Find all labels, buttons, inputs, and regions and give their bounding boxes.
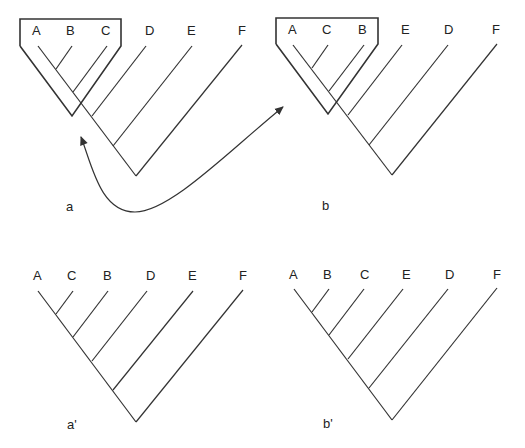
leaf-label: D xyxy=(145,23,154,38)
tree-b: A C B E D F b xyxy=(276,18,500,213)
leaf-label: C xyxy=(322,22,331,37)
leaf-label: C xyxy=(101,23,110,38)
leaf-label: F xyxy=(492,22,500,37)
leaf-label: C xyxy=(360,267,369,282)
tree-a-prime: A C B D E F a' xyxy=(33,268,247,432)
leaf-label: D xyxy=(444,22,453,37)
leaf-label: E xyxy=(187,23,196,38)
leaf-label: A xyxy=(289,267,298,282)
tree-a: A B C D E F a xyxy=(20,19,246,214)
leaf-label: F xyxy=(238,23,246,38)
panel-caption: a xyxy=(66,199,74,214)
leaf-label: B xyxy=(66,23,75,38)
panel-caption: b' xyxy=(323,416,333,431)
panel-caption: a' xyxy=(67,417,77,432)
tree-b-prime: A B C E D F b' xyxy=(289,267,501,431)
tree-swap-diagram: A B C D E F a A C B E D F b A xyxy=(0,0,525,448)
leaf-label: E xyxy=(188,268,197,283)
leaf-label: D xyxy=(445,267,454,282)
leaf-label: B xyxy=(358,22,367,37)
leaf-label: D xyxy=(146,268,155,283)
leaf-label: E xyxy=(402,267,411,282)
leaf-label: A xyxy=(288,22,297,37)
panel-caption: b xyxy=(322,198,329,213)
leaf-label: B xyxy=(103,268,112,283)
leaf-label: E xyxy=(401,22,410,37)
leaf-label: A xyxy=(33,268,42,283)
leaf-label: A xyxy=(32,23,41,38)
leaf-label: F xyxy=(239,268,247,283)
leaf-label: C xyxy=(67,268,76,283)
leaf-label: F xyxy=(493,267,501,282)
swap-arrow xyxy=(81,107,283,212)
leaf-label: B xyxy=(323,267,332,282)
